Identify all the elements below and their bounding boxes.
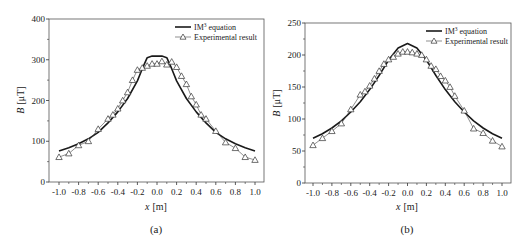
experimental-point	[120, 97, 126, 103]
experimental-point	[124, 89, 130, 95]
experimental-point	[489, 138, 495, 144]
x-axis-unit: [m]	[153, 201, 167, 212]
y-tick-label: 300	[32, 55, 46, 65]
x-tick-label: 0.4	[191, 187, 203, 197]
x-tick-label: -1.0	[52, 187, 67, 197]
y-tick-label: 200	[32, 96, 46, 106]
x-tick-label: 1.0	[249, 187, 261, 197]
legend-equation-text: equation	[207, 23, 237, 32]
x-tick-label: 0.8	[477, 188, 489, 198]
experimental-point	[499, 143, 505, 149]
legend-label-im3-equation: IM3 equation	[194, 22, 236, 32]
x-tick-label: -0.6	[344, 188, 359, 198]
y-axis-unit: [μT]	[271, 89, 282, 107]
y-axis-title: B[μT]	[15, 86, 26, 113]
x-tick-label: -0.2	[130, 187, 144, 197]
legend-im-text: IM	[445, 27, 455, 36]
series-im3-equation-line	[59, 56, 255, 151]
experimental-point	[447, 84, 453, 90]
y-tick-label: 150	[288, 82, 302, 92]
figure: -1.0-0.8-0.6-0.4-0.20.00.20.40.60.81.001…	[0, 0, 529, 242]
experimental-point	[188, 93, 194, 99]
y-tick-label: 250	[288, 18, 302, 28]
chart-caption: (b)	[401, 223, 414, 236]
x-tick-label: 0.0	[402, 188, 414, 198]
series-experimental-line	[313, 52, 502, 147]
experimental-point	[66, 150, 72, 156]
x-tick-label: 0.6	[459, 188, 471, 198]
experimental-point	[169, 59, 175, 65]
y-tick-label: 100	[288, 114, 302, 124]
y-axis-title: B[μT]	[271, 89, 282, 116]
experimental-point	[232, 145, 238, 151]
experimental-point	[310, 142, 316, 148]
y-tick-label: 0	[41, 177, 46, 187]
chart-b: -1.0-0.8-0.6-0.4-0.20.00.20.40.60.81.005…	[271, 18, 511, 236]
x-tick-label: -0.4	[111, 187, 126, 197]
legend-im-text: IM	[194, 23, 204, 32]
x-tick-label: -0.6	[91, 187, 106, 197]
legend-equation-text: equation	[458, 27, 488, 36]
x-tick-label: 0.2	[421, 188, 432, 198]
experimental-point	[178, 73, 184, 79]
legend-label-experimental: Experimental result	[445, 37, 509, 46]
x-tick-label: 0.6	[210, 187, 222, 197]
experimental-point	[452, 93, 458, 99]
plot-frame	[305, 23, 511, 183]
x-tick-label: -1.0	[306, 188, 321, 198]
x-tick-label: -0.4	[363, 188, 378, 198]
x-tick-label: 0.2	[171, 187, 182, 197]
y-tick-label: 50	[292, 146, 302, 156]
x-axis-title: x[m]	[144, 201, 167, 212]
legend: IM3 equationExperimental result	[175, 22, 258, 42]
legend: IM3 equationExperimental result	[426, 26, 509, 46]
y-tick-label: 400	[32, 14, 46, 24]
experimental-point	[437, 73, 443, 79]
experimental-point	[193, 101, 199, 107]
x-axis-var: x	[395, 201, 401, 212]
x-tick-label: -0.2	[381, 188, 395, 198]
x-tick-label: 0.8	[230, 187, 242, 197]
x-axis-unit: [m]	[404, 201, 418, 212]
experimental-point	[159, 58, 165, 64]
legend-label-im3-equation: IM3 equation	[445, 26, 487, 36]
x-tick-label: -0.8	[71, 187, 86, 197]
experimental-point	[183, 81, 189, 87]
experimental-point	[129, 77, 135, 83]
x-tick-label: 0.4	[440, 188, 452, 198]
experimental-point	[470, 125, 476, 131]
x-tick-label: 0.0	[151, 187, 163, 197]
chart-caption: (a)	[150, 223, 163, 236]
plot-frame	[49, 19, 264, 182]
y-axis-unit: [μT]	[15, 86, 26, 104]
y-tick-label: 200	[288, 50, 302, 60]
y-tick-label: 100	[32, 136, 46, 146]
x-tick-label: 1.0	[496, 188, 508, 198]
chart-a: -1.0-0.8-0.6-0.4-0.20.00.20.40.60.81.001…	[15, 14, 264, 236]
legend-label-experimental: Experimental result	[194, 33, 258, 42]
y-axis-var: B	[271, 111, 282, 117]
y-axis-var: B	[15, 108, 26, 114]
experimental-point	[56, 154, 62, 160]
legend-swatch-experimental-marker	[180, 34, 186, 39]
x-axis-var: x	[144, 201, 150, 212]
y-tick-label: 0	[297, 178, 302, 188]
x-axis-title: x[m]	[395, 201, 418, 212]
x-tick-label: -0.8	[325, 188, 340, 198]
experimental-point	[319, 135, 325, 141]
experimental-point	[480, 130, 486, 136]
legend-swatch-experimental-marker	[431, 38, 437, 43]
